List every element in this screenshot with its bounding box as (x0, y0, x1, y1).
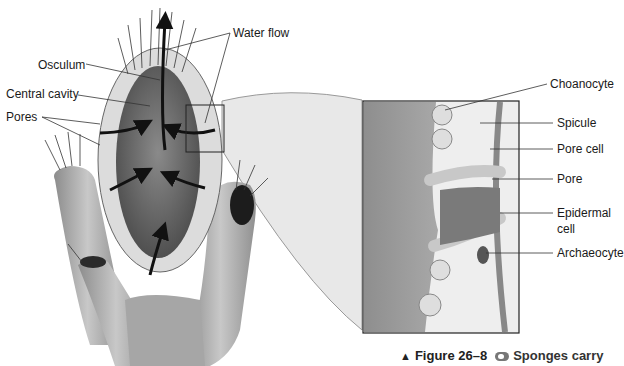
inset-cell-detail (363, 101, 519, 333)
label-water-flow: Water flow (233, 26, 289, 40)
label-spicule: Spicule (557, 116, 596, 130)
label-pores: Pores (6, 110, 37, 124)
label-pore: Pore (557, 172, 582, 186)
figure-number: Figure 26–8 (415, 348, 487, 363)
label-choanocyte: Choanocyte (550, 77, 614, 91)
figure-caption: ▲Figure 26–8Sponges carry (400, 348, 603, 363)
label-epidermal-cell-2: cell (557, 222, 575, 236)
label-archaeocyte: Archaeocyte (557, 246, 624, 260)
label-epidermal-cell-1: Epidermal (557, 206, 611, 220)
go-online-icon[interactable] (495, 352, 509, 361)
label-osculum: Osculum (38, 58, 85, 72)
label-central-cavity: Central cavity (6, 87, 79, 101)
label-pore-cell: Pore cell (557, 142, 604, 156)
caption-text: Sponges carry (513, 348, 603, 363)
triangle-marker-icon: ▲ (400, 350, 411, 362)
